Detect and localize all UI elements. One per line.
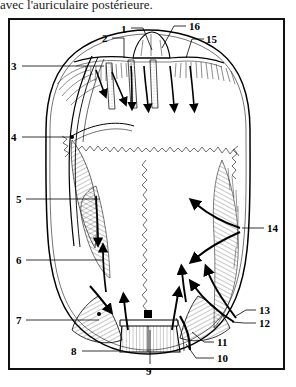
- label-11: 11: [217, 337, 227, 348]
- arrow-1: [96, 70, 104, 92]
- leader-13: [236, 310, 256, 316]
- arrow-base-mid: [182, 272, 186, 302]
- right-side-group: [180, 160, 240, 341]
- arrow-4: [144, 66, 148, 106]
- keystone-marker: [144, 310, 152, 318]
- label-7: 7: [16, 315, 22, 326]
- label-12: 12: [259, 318, 270, 329]
- label-9: 9: [146, 366, 152, 377]
- label-3: 3: [11, 61, 17, 72]
- occipital-plate-top-band: [120, 320, 178, 326]
- suture-strips-superior: [106, 60, 158, 109]
- label-5: 5: [16, 194, 22, 205]
- left-lower-lobe: [72, 296, 122, 343]
- coronal-suture-wavy: [78, 146, 239, 156]
- leader-15: [186, 39, 204, 58]
- label-14: 14: [267, 223, 278, 234]
- arrow-6: [190, 66, 194, 106]
- label-8: 8: [71, 346, 77, 357]
- label-6: 6: [16, 255, 22, 266]
- arrow-5: [170, 66, 174, 106]
- leader-2: [112, 38, 124, 58]
- label-15: 15: [206, 34, 217, 45]
- occipital-base-group: [72, 272, 190, 352]
- anterior-fontanelle: [133, 32, 170, 58]
- label-10: 10: [217, 353, 228, 364]
- label-1: 1: [121, 24, 127, 35]
- label-16: 16: [189, 21, 200, 32]
- left-temporal-group: [69, 56, 134, 292]
- node-7: [97, 312, 101, 316]
- label-13: 13: [259, 305, 270, 316]
- leader-12: [232, 322, 256, 323]
- left-squamous-suture-wavy: [62, 136, 69, 157]
- label-2: 2: [102, 33, 108, 44]
- label-4: 4: [11, 132, 17, 143]
- temporal-fan-left: [57, 66, 100, 105]
- muscle-fibres-right: [175, 62, 235, 84]
- sagittal-suture-wavy: [142, 160, 148, 312]
- anatomical-figure: [0, 0, 296, 387]
